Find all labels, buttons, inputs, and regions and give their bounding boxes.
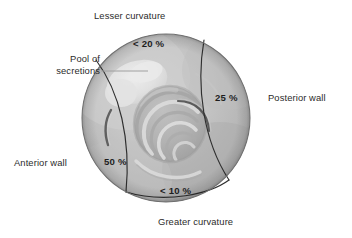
stomach-diagram-svg	[0, 0, 352, 238]
label-pool-of-secretions-line1: Pool of	[70, 53, 100, 64]
label-pool-of-secretions-line2: secretions	[56, 65, 100, 76]
percent-label-anterior-wall: 50 %	[104, 156, 127, 167]
percent-label-lesser-curvature: < 20 %	[133, 38, 164, 49]
percent-label-posterior-wall: 25 %	[215, 92, 238, 103]
label-posterior-wall: Posterior wall	[268, 92, 326, 104]
stomach-cross-section-figure: Lesser curvature Greater curvature Poste…	[0, 0, 352, 238]
label-pool-of-secretions: Pool of secretions	[26, 53, 100, 76]
disc-rim-shade	[82, 34, 250, 202]
label-anterior-wall: Anterior wall	[14, 157, 67, 169]
percent-label-greater-curvature: < 10 %	[160, 185, 191, 196]
label-lesser-curvature: Lesser curvature	[94, 10, 165, 22]
label-greater-curvature: Greater curvature	[158, 216, 233, 228]
